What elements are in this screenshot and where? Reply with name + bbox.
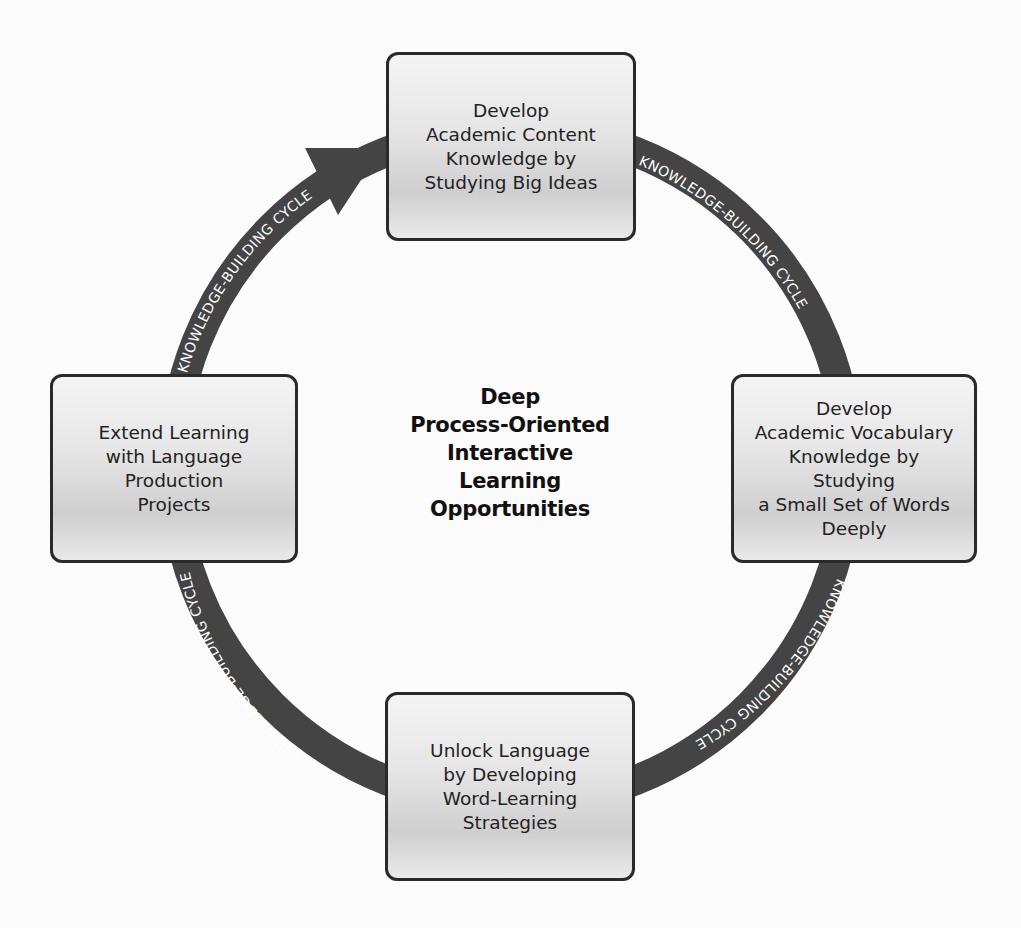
step-box-content-knowledge: Develop Academic Content Knowledge by St…: [386, 52, 636, 241]
center-title: Deep Process-Oriented Interactive Learni…: [410, 383, 610, 523]
step-box-vocabulary-knowledge: Develop Academic Vocabulary Knowledge by…: [731, 374, 977, 563]
ring-label-top-right: KNOWLEDGE-BUILDING CYCLE: [637, 153, 811, 312]
step-box-language-production: Extend Learning with Language Production…: [50, 374, 298, 563]
step-box-word-learning-strategies: Unlock Language by Developing Word-Learn…: [385, 692, 635, 881]
